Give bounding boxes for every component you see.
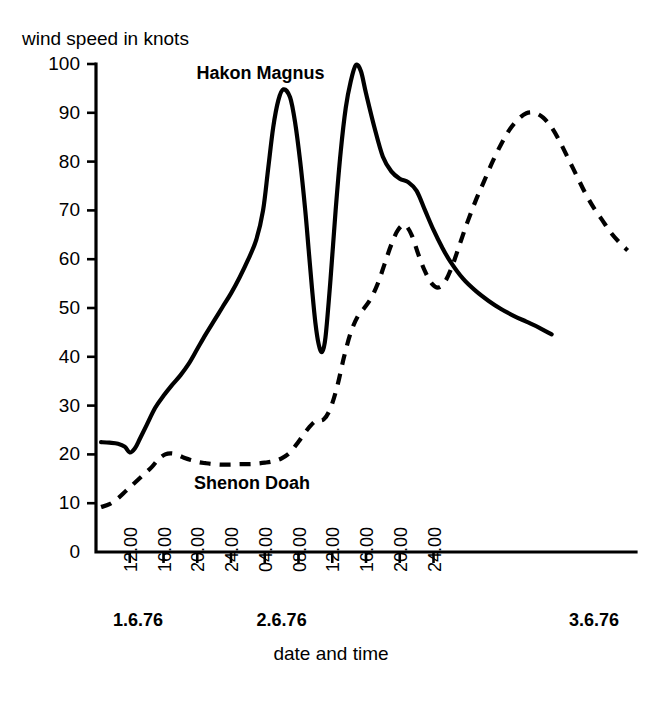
y-tick-label: 60 (59, 248, 80, 269)
y-tick-label: 40 (59, 346, 80, 367)
y-tick-label: 10 (59, 492, 80, 513)
y-tick-label: 90 (59, 102, 80, 123)
wind-speed-chart: wind speed in knots 01020304050607080901… (0, 0, 662, 704)
y-tick-label: 80 (59, 151, 80, 172)
x-axis-title-text: date and time (273, 643, 388, 664)
x-tick-label: 16.00 (357, 527, 377, 572)
annotation-group: Hakon MagnusShenon Doah (194, 63, 324, 493)
x-tick-label: 04.00 (256, 527, 276, 572)
y-tick-label: 100 (48, 53, 80, 74)
series-annotation: Hakon Magnus (197, 63, 325, 83)
x-tick-label: 16.00 (155, 527, 175, 572)
y-tick-label: 70 (59, 199, 80, 220)
y-tick-label: 0 (69, 541, 80, 562)
date-label: 3.6.76 (569, 610, 619, 630)
x-tick-group: 12.0016.0020.0024.0004.0008.0012.0016.00… (121, 527, 445, 572)
x-tick-label: 12.00 (121, 527, 141, 572)
series-annotation: Shenon Doah (194, 473, 310, 493)
series-group (101, 65, 628, 508)
date-label: 1.6.76 (113, 610, 163, 630)
y-tick-label: 20 (59, 443, 80, 464)
y-axis-title: wind speed in knots (21, 28, 189, 49)
y-tick-label: 50 (59, 297, 80, 318)
x-tick-label: 20.00 (188, 527, 208, 572)
chart-svg: wind speed in knots 01020304050607080901… (0, 0, 662, 704)
date-label-group: 1.6.762.6.763.6.76 (113, 610, 619, 630)
y-tick-label: 30 (59, 395, 80, 416)
x-tick-label: 24.00 (425, 527, 445, 572)
x-tick-label: 12.00 (323, 527, 343, 572)
y-tick-group: 0102030405060708090100 (48, 53, 96, 562)
x-tick-label: 08.00 (290, 527, 310, 572)
series-line-hakon-magnus (101, 65, 552, 453)
date-label: 2.6.76 (257, 610, 307, 630)
series-line-shenon-doah (101, 112, 628, 507)
x-tick-label: 24.00 (222, 527, 242, 572)
x-tick-label: 20.00 (391, 527, 411, 572)
y-axis-title-text: wind speed in knots (21, 28, 189, 49)
